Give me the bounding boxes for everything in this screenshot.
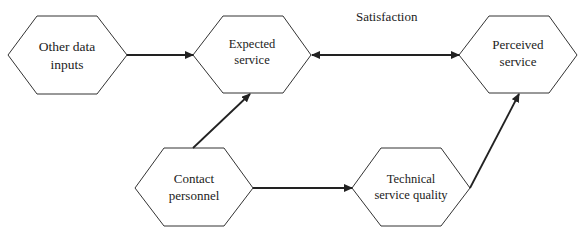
label-line: Other data	[27, 38, 107, 56]
label-line: Contact	[154, 170, 234, 187]
label-expected-service: Expected service	[212, 36, 292, 68]
label-line: personnel	[154, 187, 234, 204]
satisfaction-label: Satisfaction	[356, 9, 417, 25]
label-line: inputs	[27, 56, 107, 74]
edge-technical-to-perceived	[470, 94, 519, 188]
label-line: service	[212, 52, 292, 68]
label-line: Perceived	[478, 36, 558, 53]
label-line: service quality	[361, 187, 461, 203]
label-contact-personnel: Contact personnel	[154, 170, 234, 204]
label-other-data-inputs: Other data inputs	[27, 38, 107, 74]
label-perceived-service: Perceived service	[478, 36, 558, 70]
label-line: service	[478, 53, 558, 70]
label-line: Technical	[361, 171, 461, 187]
label-line: Expected	[212, 36, 292, 52]
label-technical-service-quality: Technical service quality	[361, 171, 461, 203]
edge-contact-to-expected	[193, 94, 250, 148]
